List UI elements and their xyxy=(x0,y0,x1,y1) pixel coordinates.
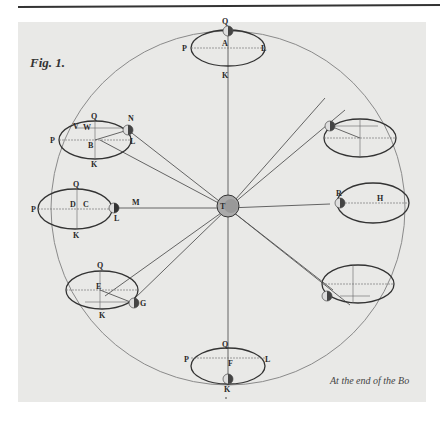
svg-text:V: V xyxy=(73,122,79,131)
svg-text:Q: Q xyxy=(97,261,103,270)
svg-text:W: W xyxy=(83,123,91,132)
svg-text:P: P xyxy=(182,44,187,53)
svg-text:N: N xyxy=(128,114,134,123)
svg-text:F: F xyxy=(228,359,233,368)
svg-text:K: K xyxy=(222,71,229,80)
svg-text:M: M xyxy=(132,198,140,207)
svg-text:K: K xyxy=(91,160,98,169)
svg-text:C: C xyxy=(83,200,89,209)
svg-text:H: H xyxy=(377,194,384,203)
svg-text:D: D xyxy=(70,200,76,209)
earth: T xyxy=(217,195,239,217)
svg-text:Q: Q xyxy=(91,112,97,121)
moon-position-lower-left: Q E G K xyxy=(66,261,146,320)
figure-caption: At the end of the Bo xyxy=(329,375,409,386)
svg-text:T: T xyxy=(220,202,226,211)
moon-position-top: Q P A L K xyxy=(182,17,266,80)
svg-text:L: L xyxy=(114,214,119,223)
svg-text:L: L xyxy=(130,137,135,146)
moon-position-lower-right xyxy=(322,265,394,303)
svg-text:B: B xyxy=(88,141,94,150)
svg-text:L: L xyxy=(265,355,270,364)
moon-position-upper-left: Q N W V P B L K xyxy=(50,112,135,169)
figure-label: Fig. 1. xyxy=(29,55,65,70)
moon-position-left: Q P D C L M K xyxy=(31,180,140,240)
svg-text:P: P xyxy=(50,136,55,145)
svg-text:A: A xyxy=(222,39,228,48)
svg-text:P: P xyxy=(184,355,189,364)
svg-text:Q: Q xyxy=(222,340,228,349)
moon-phase-diagram: Q P A L K Q N W V P B L K xyxy=(0,0,440,424)
svg-text:Q: Q xyxy=(222,17,228,26)
moon-position-upper-right xyxy=(324,119,396,157)
svg-text:P: P xyxy=(31,205,36,214)
svg-text:E: E xyxy=(96,282,101,291)
svg-text:K: K xyxy=(224,385,231,394)
svg-text:R: R xyxy=(336,189,342,198)
svg-text:K: K xyxy=(99,311,106,320)
svg-text:K: K xyxy=(73,231,80,240)
moon-position-right: R H xyxy=(335,183,409,223)
svg-text:G: G xyxy=(140,299,146,308)
svg-text:Q: Q xyxy=(73,180,79,189)
svg-text:L: L xyxy=(261,44,266,53)
moon-position-bottom: Q P F L K xyxy=(184,340,270,399)
